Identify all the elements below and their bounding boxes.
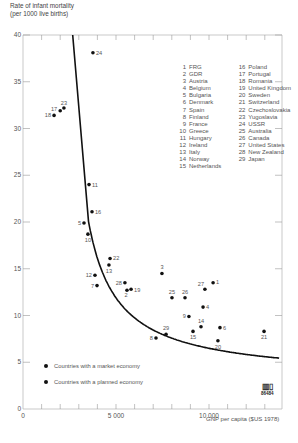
logo-code: 86484 — [261, 391, 274, 396]
data-point-25 — [170, 296, 174, 300]
data-point-label: 9 — [183, 313, 186, 319]
data-point-label: 21 — [261, 334, 267, 340]
country-key-name: Netherlands — [189, 163, 221, 169]
bullet-icon — [44, 364, 48, 368]
country-key-column-1: 1FRG2GDR3Austria4Belgium5Bulgaria6Denmar… — [176, 64, 221, 170]
data-point-16 — [90, 210, 94, 214]
country-key-number: 16 — [235, 64, 245, 71]
data-point-5 — [82, 221, 86, 225]
data-point-23 — [62, 106, 66, 110]
data-point-4 — [201, 305, 205, 309]
country-key-item: 10Greece — [176, 128, 221, 135]
bullet-icon — [44, 380, 48, 384]
country-key-number: 29 — [235, 156, 245, 163]
country-key-item: 29Japan — [235, 156, 291, 163]
country-key: 1FRG2GDR3Austria4Belgium5Bulgaria6Denmar… — [176, 64, 291, 170]
country-key-item: 14Norway — [176, 156, 221, 163]
country-key-name: United Kingdom — [248, 85, 291, 91]
data-point-10 — [86, 232, 90, 236]
data-point-6 — [218, 326, 222, 330]
country-key-name: Romania — [248, 78, 272, 84]
data-point-label: 20 — [215, 344, 221, 350]
data-point-label: 11 — [92, 182, 98, 188]
x-axis-title: GNP per capita ($US 1978) — [206, 416, 279, 422]
country-key-number: 23 — [235, 114, 245, 121]
country-key-name: Bulgaria — [189, 92, 211, 98]
country-key-item: 9France — [176, 121, 221, 128]
country-key-item: 7Spain — [176, 107, 221, 114]
data-point-label: 24 — [96, 50, 102, 56]
data-point-label: 15 — [190, 334, 196, 340]
logo-mark-icon: ▥▯ — [261, 383, 274, 391]
data-point-27 — [203, 288, 207, 292]
country-key-name: Hungary — [189, 135, 212, 141]
legend-market-label: Countries with a market economy — [54, 363, 140, 369]
country-key-name: Finland — [189, 114, 209, 120]
country-key-name: Czechoslovakia — [248, 107, 290, 113]
country-key-item: 12Ireland — [176, 142, 221, 149]
country-key-item: 16Poland — [235, 64, 291, 71]
data-point-label: 6 — [223, 325, 226, 331]
data-point-14 — [199, 325, 203, 329]
data-point-24 — [91, 51, 95, 55]
y-tick-label: 10 — [14, 312, 22, 319]
y-tick-label: 35 — [14, 78, 22, 85]
country-key-name: GDR — [189, 71, 202, 77]
data-point-17 — [58, 109, 62, 113]
data-point-label: 28 — [116, 280, 122, 286]
country-key-name: United States — [248, 142, 284, 148]
data-point-12 — [93, 273, 97, 277]
country-key-name: Poland — [248, 64, 267, 70]
country-key-item: 3Austria — [176, 78, 221, 85]
country-key-number: 3 — [176, 78, 186, 85]
data-point-label: 4 — [206, 304, 209, 310]
data-point-20 — [216, 339, 220, 343]
data-point-label: 26 — [182, 289, 188, 295]
country-key-number: 9 — [176, 121, 186, 128]
x-tick-label: 5 000 — [108, 412, 125, 419]
data-point-22 — [108, 257, 112, 261]
country-key-name: Portugal — [248, 71, 270, 77]
country-key-number: 24 — [235, 121, 245, 128]
country-key-name: Japan — [248, 156, 264, 162]
country-key-number: 10 — [176, 128, 186, 135]
country-key-number: 8 — [176, 114, 186, 121]
country-key-name: Norway — [189, 156, 209, 162]
country-key-number: 19 — [235, 85, 245, 92]
country-key-item: 18Romania — [235, 78, 291, 85]
y-tick-label: 30 — [14, 125, 22, 132]
country-key-name: Greece — [189, 128, 209, 134]
data-point-3 — [160, 272, 164, 276]
data-point-label: 29 — [163, 325, 169, 331]
data-point-19 — [129, 288, 133, 292]
data-point-label: 2 — [124, 292, 127, 298]
country-key-item: 1FRG — [176, 64, 221, 71]
country-key-name: Ireland — [189, 142, 207, 148]
data-point-15 — [191, 330, 195, 334]
data-point-label: 5 — [78, 220, 81, 226]
data-point-28 — [123, 281, 127, 285]
country-key-number: 20 — [235, 92, 245, 99]
country-key-item: 5Bulgaria — [176, 92, 221, 99]
country-key-number: 15 — [176, 163, 186, 170]
country-key-item: 2GDR — [176, 71, 221, 78]
country-key-number: 2 — [176, 71, 186, 78]
country-key-item: 20Sweden — [235, 92, 291, 99]
data-point-label: 16 — [95, 209, 101, 215]
country-key-number: 21 — [235, 99, 245, 106]
country-key-number: 14 — [176, 156, 186, 163]
data-point-18 — [52, 114, 56, 118]
country-key-number: 17 — [235, 71, 245, 78]
data-point-26 — [183, 296, 187, 300]
country-key-number: 5 — [176, 92, 186, 99]
data-point-13 — [107, 263, 111, 267]
country-key-name: Spain — [189, 107, 204, 113]
data-point-29 — [164, 332, 168, 336]
country-key-item: 22Czechoslovakia — [235, 107, 291, 114]
country-key-item: 24USSR — [235, 121, 291, 128]
y-tick-label: 15 — [14, 265, 22, 272]
country-key-number: 4 — [176, 85, 186, 92]
data-point-label: 17 — [51, 106, 57, 112]
country-key-number: 22 — [235, 107, 245, 114]
country-key-name: Switzerland — [248, 99, 279, 105]
